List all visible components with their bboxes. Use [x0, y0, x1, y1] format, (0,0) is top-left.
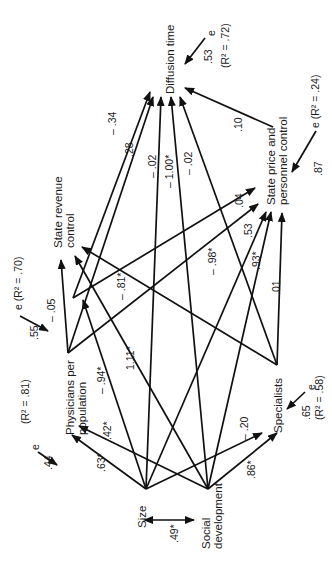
error-state-revenue: e (R² = .70)	[12, 257, 24, 310]
coef-physicians-price: – .98*	[206, 248, 218, 275]
coef-size-revenue: – .94*	[95, 367, 107, 394]
r2-physicians: (R² = .81)	[19, 379, 31, 424]
coef-revenue-price: .04	[233, 193, 245, 208]
coef-price-diffusion: .10	[232, 117, 244, 132]
r2-diffusion: (R² = .72)	[219, 23, 231, 68]
error-e-physicians: e	[29, 444, 41, 450]
coef-specialists-price: .01	[270, 280, 282, 295]
r2-specialists: (R² = .58)	[313, 375, 325, 420]
coef-social-specialists: .86*	[245, 460, 257, 479]
node-state-revenue-control: State revenue control	[52, 176, 76, 248]
node-size-label: Size	[136, 506, 148, 528]
error-coef-specialists: .65	[300, 405, 312, 420]
node-social-development-line1: Social	[200, 483, 212, 549]
node-physicians-line2: population	[76, 360, 88, 435]
node-state-price-line2: personnel control	[277, 117, 289, 205]
error-coef-state-price: .87	[312, 161, 324, 176]
coef-size-physicians: .63*	[95, 453, 107, 472]
coef-physicians-diffusion: .28	[123, 142, 135, 157]
node-state-revenue-line2: control	[64, 176, 76, 248]
coef-social-physicians: .42*	[101, 421, 113, 440]
coef-size-specialists: – .20	[238, 417, 250, 440]
error-state-price: e (R² = .24)	[309, 75, 321, 128]
node-social-development: Social development	[200, 483, 224, 549]
node-physicians-line1: Physicians per	[64, 360, 76, 435]
error-coef-physicians: .44	[42, 455, 54, 470]
node-state-price-control: State price and personnel control	[265, 117, 289, 205]
node-diffusion-label: Diffusion time	[164, 25, 176, 94]
coef-social-price: .93*	[250, 251, 262, 270]
error-coef-state-revenue: .55	[28, 325, 40, 340]
node-physicians: Physicians per population	[64, 360, 88, 435]
path-diagram: Size Social development Physicians per p…	[0, 0, 332, 561]
coef-size-price: .53	[242, 223, 254, 238]
coef-social-revenue: 1.11*	[124, 346, 136, 370]
node-size: Size	[136, 506, 148, 528]
error-e-diffusion: e	[205, 30, 217, 36]
error-coef-diffusion: .53	[202, 49, 214, 64]
node-specialists: Specialists	[272, 378, 284, 433]
node-state-revenue-line1: State revenue	[52, 176, 64, 248]
coef-specialists-diffusion: – .02	[182, 152, 194, 175]
coef-physicians-revenue: – .05	[45, 299, 57, 322]
coef-revenue-diffusion: – .34	[106, 112, 118, 135]
node-diffusion-time: Diffusion time	[164, 25, 176, 94]
coef-size-diffusion: – .02	[146, 155, 158, 178]
coef-social-diffusion: – 1.00*	[163, 155, 175, 188]
node-specialists-label: Specialists	[272, 378, 284, 433]
coef-size-social: .49*	[168, 524, 180, 543]
node-state-price-line1: State price and	[265, 117, 277, 205]
node-social-development-line2: development	[212, 483, 224, 549]
coef-specialists-revenue: – .81*	[115, 273, 127, 300]
